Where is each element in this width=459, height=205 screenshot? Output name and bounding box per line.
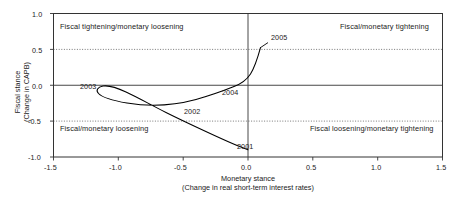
quadrant-label-bottom-left: Fiscal/monetary loosening	[60, 124, 148, 133]
x-tick-label-neg1.5: -1.5	[44, 163, 57, 172]
point-label-2002: 2002	[184, 107, 200, 116]
y-tick-label-0.5: 0.5	[32, 46, 42, 55]
x-axis-ticks	[54, 157, 443, 161]
point-label-2001: 2001	[237, 142, 253, 151]
x-tick-label-1.5: 1.5	[436, 163, 446, 172]
x-tick-label-neg1.0: -1.0	[109, 163, 122, 172]
chart-figure: Fiscal stance (Change in CAPB) Monetary …	[0, 0, 459, 205]
quadrant-label-top-right: Fiscal/monetary tightening	[340, 22, 429, 31]
x-tick-label-0.0: 0.0	[241, 163, 251, 172]
policy-mix-line	[97, 48, 260, 150]
x-axis-title-sub: (Change in real short-term interest rate…	[182, 183, 314, 192]
quadrant-label-bottom-right: Fiscal loosening/monetary tightening	[310, 124, 434, 133]
point-label-2003: 2003	[80, 82, 96, 91]
y-tick-label-1.0: 1.0	[32, 10, 42, 19]
y-tick-label-neg0.5: -0.5	[28, 117, 41, 126]
x-tick-label-0.5: 0.5	[306, 163, 316, 172]
x-tick-label-neg0.5: -0.5	[174, 163, 187, 172]
y-axis-ticks	[50, 14, 54, 158]
leader-2005	[261, 43, 269, 48]
y-tick-label-neg1.0: -1.0	[28, 153, 41, 162]
point-label-2004: 2004	[222, 88, 238, 97]
x-tick-label-1.0: 1.0	[371, 163, 381, 172]
quadrant-label-top-left: Fiscal tightening/monetary loosening	[60, 22, 184, 31]
x-axis-title: Monetary stance (Change in real short-te…	[153, 174, 343, 192]
x-axis-title-main: Monetary stance	[221, 174, 275, 183]
point-label-2005: 2005	[271, 33, 287, 42]
y-axis-title-sub: (Change in CAPB)	[22, 62, 31, 122]
y-tick-label-0.0: 0.0	[32, 82, 42, 91]
y-axis-title: Fiscal stance (Change in CAPB)	[14, 62, 31, 122]
